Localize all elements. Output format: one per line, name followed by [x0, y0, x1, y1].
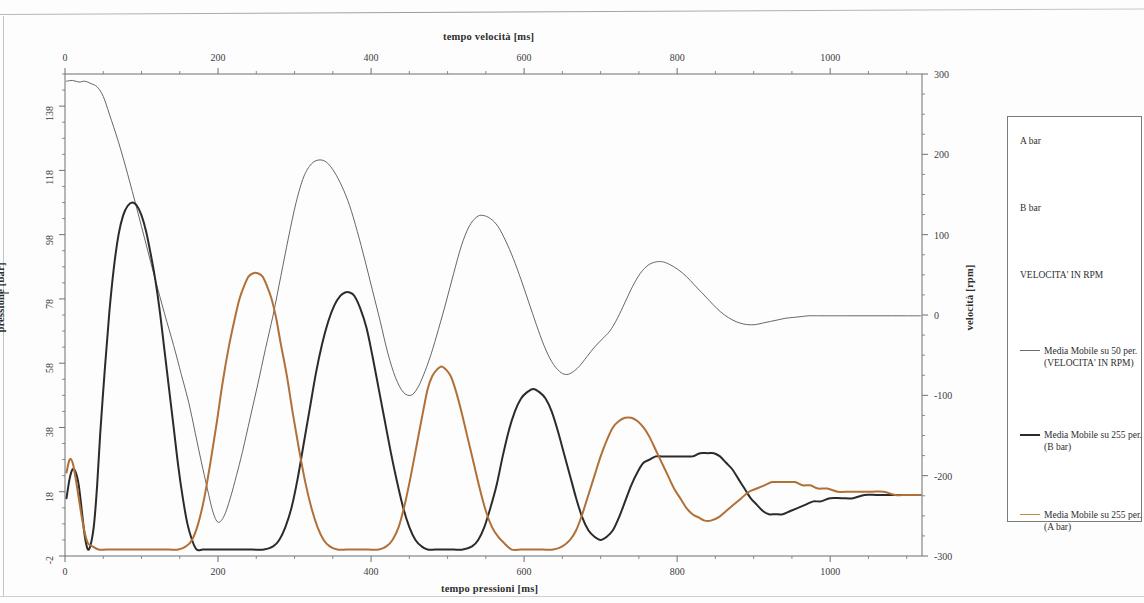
chart-figure: tempo velocità [ms] tempo pressioni [ms]…	[0, 0, 990, 603]
plot-area	[0, 0, 990, 603]
legend-item-1[interactable]: B bar	[1020, 202, 1144, 214]
legend-item-label: VELOCITA' IN RPM	[1020, 269, 1103, 281]
chart-legend: A barB barVELOCITA' IN RPMMedia Mobile s…	[1007, 116, 1142, 522]
legend-item-label: Media Mobile su 255 per. (B bar)	[1044, 429, 1144, 453]
series-line-1	[67, 203, 921, 551]
legend-item-3[interactable]: Media Mobile su 50 per. (VELOCITA' IN RP…	[1044, 345, 1144, 369]
legend-item-4[interactable]: Media Mobile su 255 per. (B bar)	[1044, 429, 1144, 453]
legend-item-label: B bar	[1020, 202, 1041, 214]
series-line-0	[67, 80, 921, 522]
legend-item-label: Media Mobile su 50 per. (VELOCITA' IN RP…	[1044, 345, 1144, 369]
legend-item-label: Media Mobile su 255 per. (A bar)	[1044, 509, 1144, 533]
legend-item-label: A bar	[1020, 135, 1041, 147]
legend-line-swatch	[1020, 434, 1040, 436]
legend-line-swatch	[1020, 350, 1040, 351]
legend-item-5[interactable]: Media Mobile su 255 per. (A bar)	[1044, 509, 1144, 533]
legend-line-swatch	[1020, 514, 1040, 515]
scanned-page: tempo velocità [ms] tempo pressioni [ms]…	[0, 0, 1144, 603]
legend-item-2[interactable]: VELOCITA' IN RPM	[1020, 269, 1144, 281]
legend-item-0[interactable]: A bar	[1020, 135, 1144, 147]
series-line-2	[67, 273, 921, 550]
